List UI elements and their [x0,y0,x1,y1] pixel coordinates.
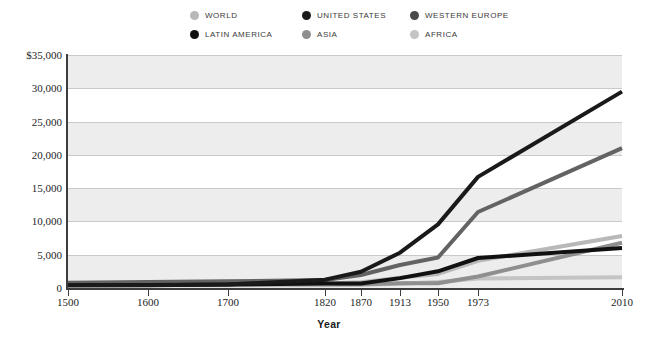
legend-item-united-states[interactable]: UNITED STATES [302,11,410,20]
legend-swatch-africa-icon [410,30,419,39]
gdp-per-capita-line-chart: WORLD UNITED STATES WESTERN EUROPE LATIN… [0,0,658,344]
y-axis-tick-labels: 05,00010,00015,00020,00025,00030,000$35,… [0,0,62,344]
x-tick-label: 1870 [350,296,372,308]
legend-item-asia[interactable]: ASIA [302,30,410,39]
x-tick [400,290,401,296]
y-axis-line [66,54,68,290]
legend-label-united-states: UNITED STATES [317,11,386,20]
x-tick [438,290,439,296]
x-tick [325,290,326,296]
legend-item-latin-america[interactable]: LATIN AMERICA [190,30,302,39]
plot-area [68,55,622,288]
legend-label-latin-america: LATIN AMERICA [205,30,272,39]
legend-item-africa[interactable]: AFRICA [410,30,520,39]
x-tick [478,290,479,296]
y-tick-label: $35,000 [2,49,62,61]
legend-label-world: WORLD [205,11,238,20]
x-tick [228,290,229,296]
x-tick-label: 1913 [389,296,411,308]
legend-swatch-western-europe-icon [410,11,419,20]
x-tick-label: 2010 [611,296,633,308]
y-tick-label: 10,000 [2,215,62,227]
series-lines [68,55,622,288]
y-tick-label: 5,000 [2,249,62,261]
y-tick-label: 20,000 [2,149,62,161]
x-tick-label: 1950 [427,296,449,308]
x-axis-line [66,288,624,290]
legend-label-western-europe: WESTERN EUROPE [425,11,509,20]
x-tick-label: 1973 [467,296,489,308]
chart-legend: WORLD UNITED STATES WESTERN EUROPE LATIN… [190,6,520,44]
y-tick-label: 15,000 [2,182,62,194]
y-tick-label: 30,000 [2,82,62,94]
legend-label-africa: AFRICA [425,30,458,39]
x-tick-label: 1600 [137,296,159,308]
x-tick [68,290,69,296]
x-tick-label: 1500 [57,296,79,308]
x-tick [148,290,149,296]
legend-swatch-world-icon [190,11,199,20]
legend-label-asia: ASIA [317,30,337,39]
legend-swatch-latin-america-icon [190,30,199,39]
series-line-united-states [68,92,622,286]
y-tick-label: 0 [2,282,62,294]
legend-swatch-united-states-icon [302,11,311,20]
y-tick-label: 25,000 [2,116,62,128]
legend-item-world[interactable]: WORLD [190,11,302,20]
legend-item-western-europe[interactable]: WESTERN EUROPE [410,11,520,20]
x-tick [361,290,362,296]
x-tick-label: 1820 [314,296,336,308]
legend-swatch-asia-icon [302,30,311,39]
x-tick-label: 1700 [217,296,239,308]
x-axis-title: Year [0,318,658,330]
x-tick [622,290,623,296]
